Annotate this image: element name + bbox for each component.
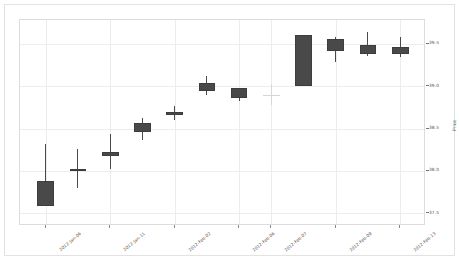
x-tick-mark	[399, 225, 400, 228]
x-tick-label: 2012-Jan-06	[58, 231, 82, 252]
y-tick-label: 39.0	[429, 83, 439, 88]
plot-area	[19, 19, 425, 225]
candlestick	[199, 20, 216, 226]
x-tick-mark	[174, 225, 175, 228]
y-tick-label: 39.5	[429, 40, 439, 45]
chart-figure: 37.538.038.539.039.5 2012-Jan-062012-Jan…	[0, 0, 459, 266]
candlestick	[231, 20, 248, 226]
x-tick-mark	[109, 225, 110, 228]
x-tick-label: 2012-Feb-09	[348, 231, 372, 253]
candlestick	[327, 20, 344, 226]
candle-body	[392, 47, 409, 54]
y-axis-label: Price	[452, 120, 457, 131]
x-tick-label: 2012-Feb-02	[187, 231, 211, 253]
candlestick	[360, 20, 377, 226]
y-tick-label: 38.5	[429, 125, 439, 130]
candle-body	[102, 152, 119, 155]
candle-body	[263, 95, 280, 96]
x-tick-mark	[270, 225, 271, 228]
y-tick-label: 37.5	[429, 210, 439, 215]
candle-body	[166, 112, 183, 115]
x-tick-label: 2012-Jan-11	[122, 231, 146, 252]
candle-body	[231, 88, 248, 98]
candle-body	[70, 169, 87, 171]
y-tick-label: 38.0	[429, 167, 439, 172]
x-tick-mark	[238, 225, 239, 228]
candlestick	[166, 20, 183, 226]
candle-body	[327, 39, 344, 51]
figure-frame: 37.538.038.539.039.5 2012-Jan-062012-Jan…	[4, 4, 455, 256]
candlestick	[295, 20, 312, 226]
candlestick	[102, 20, 119, 226]
candle-body	[134, 123, 151, 131]
x-tick-mark	[335, 225, 336, 228]
candle-body	[360, 45, 377, 53]
candlestick	[263, 20, 280, 226]
x-tick-label: 2012-Feb-13	[413, 231, 437, 253]
candlestick	[37, 20, 54, 226]
candlestick	[70, 20, 87, 226]
x-tick-mark	[45, 225, 46, 228]
candle-body	[37, 181, 54, 206]
x-tick-label: 2012-Feb-06	[252, 231, 276, 253]
candlestick-series	[20, 20, 424, 224]
candlestick	[134, 20, 151, 226]
candle-body	[295, 35, 312, 86]
candle-body	[199, 83, 216, 91]
x-tick-label: 2012-Feb-07	[284, 231, 308, 253]
candlestick	[392, 20, 409, 226]
